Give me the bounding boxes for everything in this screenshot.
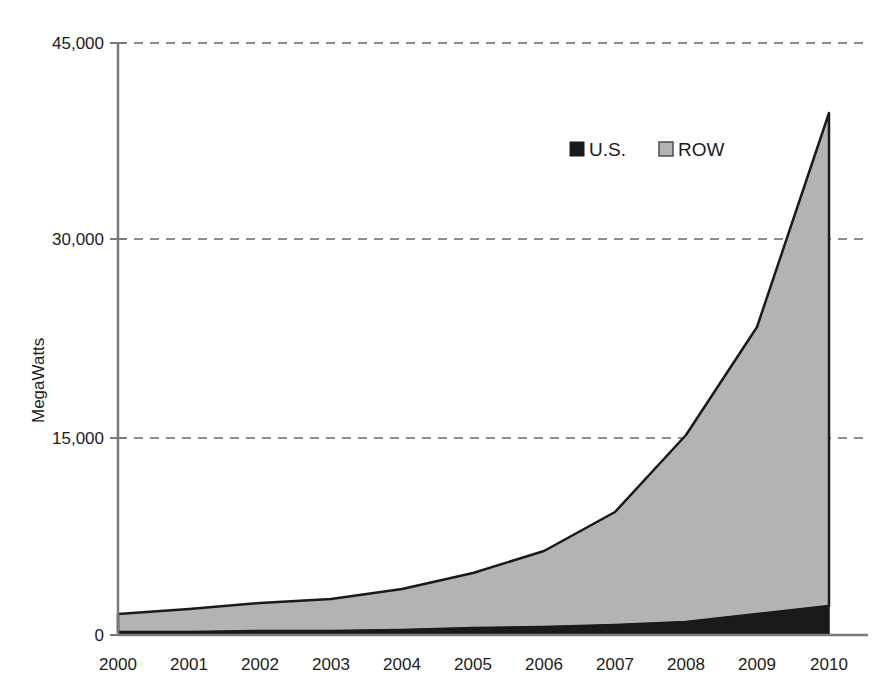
x-tick-label-2004: 2004 [383, 655, 421, 674]
x-tick-label-2000: 2000 [99, 655, 137, 674]
x-tick-label-2008: 2008 [667, 655, 705, 674]
x-tick-label-2005: 2005 [454, 655, 492, 674]
x-tick-label-2002: 2002 [241, 655, 279, 674]
legend-swatch-us [570, 142, 584, 156]
x-tick-label-2006: 2006 [525, 655, 563, 674]
y-tick-label-0: 0 [95, 626, 104, 645]
legend-swatch-row [659, 142, 673, 156]
legend-label-us: U.S. [589, 139, 626, 160]
stacked-area-chart: 45,000 30,000 15,000 0 MegaWatts 2000 20… [0, 0, 880, 694]
x-tick-label-2009: 2009 [738, 655, 776, 674]
y-axis-title: MegaWatts [29, 338, 48, 423]
x-tick-label-2010: 2010 [810, 655, 848, 674]
x-tick-label-2007: 2007 [596, 655, 634, 674]
y-tick-label-15000: 15,000 [52, 429, 104, 448]
chart-container: 45,000 30,000 15,000 0 MegaWatts 2000 20… [0, 0, 880, 694]
x-tick-label-2001: 2001 [170, 655, 208, 674]
y-tick-label-45000: 45,000 [52, 34, 104, 53]
x-tick-label-2003: 2003 [312, 655, 350, 674]
legend-label-row: ROW [678, 139, 725, 160]
y-tick-label-30000: 30,000 [52, 230, 104, 249]
